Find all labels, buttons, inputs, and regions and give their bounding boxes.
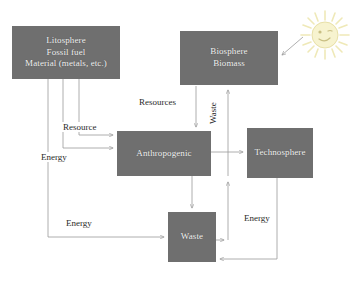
node-technosphere-label: Technosphere: [254, 147, 305, 159]
node-biosphere-line2: Biomass: [213, 58, 245, 70]
node-litosphere-line1: Litosphere: [46, 35, 86, 47]
node-litosphere[interactable]: Litosphere Fossil fuel Material (metals,…: [12, 26, 120, 79]
node-biosphere-line1: Biosphere: [210, 46, 247, 58]
edge-label-resource: Resource: [62, 122, 98, 132]
sun-icon: [298, 8, 352, 62]
diagram-canvas: Litosphere Fossil fuel Material (metals,…: [0, 0, 362, 286]
node-waste-label: Waste: [181, 231, 203, 243]
node-waste[interactable]: Waste: [168, 212, 216, 262]
node-anthropogenic-label: Anthropogenic: [136, 148, 191, 160]
edge-label-energy-bottom: Energy: [65, 218, 93, 228]
node-litosphere-line2: Fossil fuel: [47, 47, 86, 59]
edge-litosphere-energy: [63, 79, 113, 148]
edge-label-energy-right: Energy: [243, 213, 271, 223]
edge-label-waste-vertical: Waste: [208, 101, 218, 125]
node-biosphere[interactable]: Biosphere Biomass: [180, 31, 278, 85]
node-technosphere[interactable]: Technosphere: [247, 128, 313, 178]
node-litosphere-line3: Material (metals, etc.): [25, 58, 107, 70]
edge-label-resources: Resources: [138, 97, 177, 107]
node-anthropogenic[interactable]: Anthropogenic: [117, 131, 211, 176]
edge-label-energy-left: Energy: [40, 152, 68, 162]
